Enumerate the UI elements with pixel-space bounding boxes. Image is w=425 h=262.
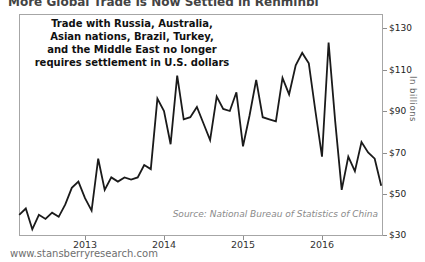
y-tick-mark: [383, 194, 387, 195]
y-tick-mark: [383, 70, 387, 71]
trade-line: [19, 43, 381, 230]
y-tick-mark: [383, 28, 387, 29]
annotation-line-2: Asian nations, Brazil, Turkey,: [12, 30, 252, 43]
y-axis-unit-label: In billions: [408, 76, 418, 122]
footer-website-link[interactable]: www.stansberryresearch.com: [10, 248, 158, 259]
y-tick-mark: [383, 153, 387, 154]
y-tick-30: $30: [389, 230, 406, 240]
annotation-line-3: and the Middle East no longer: [12, 43, 252, 56]
y-tick-130: $130: [389, 23, 412, 33]
y-tick-mark: [383, 235, 387, 236]
y-tick-50: $50: [389, 189, 406, 199]
y-tick-mark: [383, 111, 387, 112]
y-tick-90: $90: [389, 106, 406, 116]
y-tick-70: $70: [389, 148, 406, 158]
annotation-line-4: requires settlement in U.S. dollars: [12, 56, 252, 69]
x-tick-2016: 2016: [302, 239, 342, 250]
x-tick-2015: 2015: [223, 239, 263, 250]
source-note: Source: National Bureau of Statistics of…: [148, 209, 378, 219]
annotation-line-1: Trade with Russia, Australia,: [12, 17, 252, 30]
chart-annotation: Trade with Russia, Australia, Asian nati…: [12, 17, 252, 69]
y-tick-110: $110: [389, 65, 412, 75]
chart-panel: More Global Trade Is Now Settled in Renm…: [0, 0, 425, 262]
